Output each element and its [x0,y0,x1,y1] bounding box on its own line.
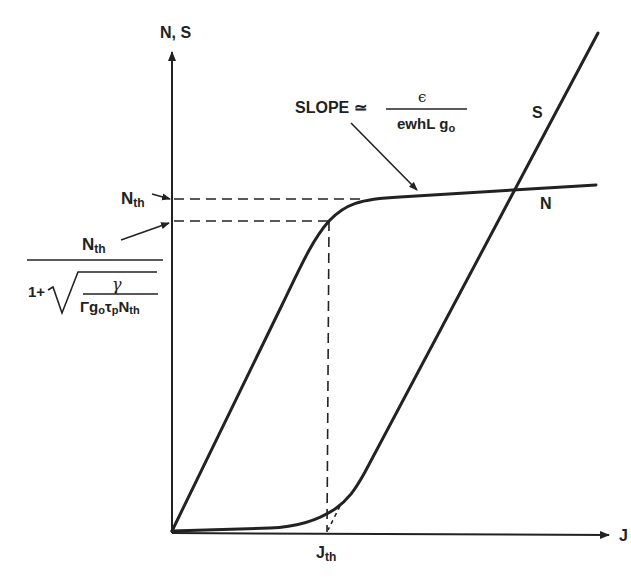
svg-text:Nth: Nth [121,189,145,210]
upper-nth-main: N [121,189,133,208]
n-curve [172,185,596,531]
lower-nth-formula: Nth 1+ γ ΓgoτpNth [27,223,169,316]
x-axis [172,533,609,535]
jth-main: J [316,544,325,561]
jth-marker: Jth [316,544,336,564]
formula-denominator-prefix: 1+ [28,283,45,300]
slope-label: SLOPE ≃ [295,99,367,116]
upper-nth-marker: Nth [121,189,170,210]
axes [172,52,609,535]
svg-text:ΓgoτpNth: ΓgoτpNth [80,298,140,316]
slope-denominator-main: ewhL g [397,115,448,132]
n-curve-label: N [540,195,552,212]
sqrt-den-n: N [118,298,129,315]
slope-denominator-sub: o [448,122,455,134]
sqrt-den-gamma: Γ [80,298,89,315]
sqrt-den-g: g [89,298,98,315]
jth-sub: th [325,550,336,564]
jth-dashed-line [327,221,329,532]
formula-numerator-sub: th [94,242,105,256]
laser-threshold-diagram: N, S J S N Nth Nth 1+ γ ΓgoτpNth [0,0,631,583]
slope-numerator: ϵ [418,88,426,106]
s-curve-label: S [532,104,543,121]
sqrt-den-n-sub: th [129,304,140,316]
slope-annotation: SLOPE ≃ ϵ ewhL go [295,88,467,190]
slope-arrow [351,123,417,190]
upper-nth-arrow [152,194,170,199]
formula-numerator-main: N [82,235,94,254]
sqrt-numerator: γ [112,275,122,294]
threshold-guides [174,199,365,532]
lower-nth-arrow [121,223,169,240]
svg-text:ewhL go: ewhL go [397,115,455,134]
svg-text:Nth: Nth [82,235,106,256]
y-axis-label: N, S [160,24,191,41]
upper-nth-sub: th [133,196,144,210]
x-axis-label: J [619,527,628,544]
